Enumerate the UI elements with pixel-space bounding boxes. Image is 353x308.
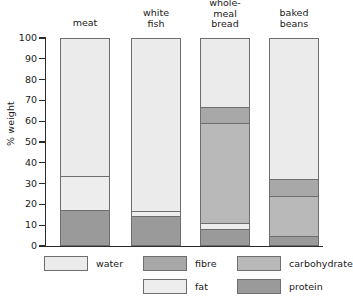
segment-divider: [61, 210, 109, 211]
legend-swatch-carbohydrate: [237, 256, 281, 271]
y-tick-label-20: 20: [11, 199, 37, 209]
chart-legend: waterfibrecarbohydratefatprotein: [39, 255, 324, 305]
legend-swatch-water: [44, 256, 88, 271]
bar-group-1: meat: [60, 0, 110, 260]
segment-divider: [201, 229, 249, 230]
y-tick-0: [39, 245, 45, 246]
legend-row-1: fatprotein: [39, 278, 324, 298]
segment-carbohydrate-3: [270, 196, 318, 236]
y-tick-30: [39, 183, 45, 184]
bar-label-0: meat: [60, 18, 110, 29]
legend-row-0: waterfibrecarbohydrate: [39, 255, 324, 275]
y-tick-40: [39, 162, 45, 163]
segment-divider: [270, 179, 318, 180]
y-tick-100: [39, 37, 45, 38]
legend-label-fibre: fibre: [195, 258, 217, 269]
y-tick-label-0: 0: [11, 241, 37, 251]
segment-protein-3: [270, 236, 318, 246]
legend-label-carbohydrate: carbohydrate: [289, 258, 353, 269]
y-tick-10: [39, 225, 45, 226]
segment-divider: [270, 196, 318, 197]
segment-divider: [132, 211, 180, 212]
y-tick-label-90: 90: [11, 54, 37, 64]
segment-divider: [132, 216, 180, 217]
segment-divider: [201, 223, 249, 224]
segment-protein-0: [61, 210, 109, 246]
segment-protein-2: [201, 229, 249, 246]
segment-water-1: [132, 39, 180, 211]
segment-divider: [270, 236, 318, 237]
segment-fat-0: [61, 176, 109, 209]
bar-1: [131, 38, 181, 246]
bar-2: [200, 38, 250, 246]
bar-group-4: baked beans: [269, 0, 319, 260]
legend-label-water: water: [96, 258, 123, 269]
segment-water-2: [201, 39, 249, 107]
segment-carbohydrate-2: [201, 123, 249, 222]
legend-swatch-fat: [143, 279, 187, 294]
legend-label-protein: protein: [289, 281, 323, 292]
y-tick-label-100: 100: [11, 33, 37, 43]
y-tick-60: [39, 121, 45, 122]
segment-water-3: [270, 39, 318, 179]
y-tick-20: [39, 204, 45, 205]
y-tick-label-30: 30: [11, 179, 37, 189]
y-tick-label-80: 80: [11, 75, 37, 85]
y-tick-80: [39, 79, 45, 80]
legend-swatch-protein: [237, 279, 281, 294]
bar-group-2: white fish: [131, 0, 181, 260]
segment-divider: [201, 107, 249, 108]
y-tick-90: [39, 58, 45, 59]
bar-label-2: whole- meal bread: [200, 0, 250, 30]
y-tick-label-50: 50: [11, 137, 37, 147]
bar-label-1: white fish: [131, 8, 181, 29]
y-tick-70: [39, 100, 45, 101]
segment-divider: [201, 123, 249, 124]
y-tick-label-10: 10: [11, 220, 37, 230]
y-tick-50: [39, 141, 45, 142]
bar-0: [60, 38, 110, 246]
y-tick-label-40: 40: [11, 158, 37, 168]
y-axis-line: [45, 37, 46, 247]
segment-divider: [61, 176, 109, 177]
y-tick-label-60: 60: [11, 116, 37, 126]
segment-fibre-3: [270, 179, 318, 196]
legend-label-fat: fat: [195, 281, 208, 292]
segment-fibre-2: [201, 107, 249, 124]
y-tick-label-70: 70: [11, 95, 37, 105]
bar-group-3: whole- meal bread: [200, 0, 250, 260]
legend-swatch-fibre: [143, 256, 187, 271]
segment-protein-1: [132, 216, 180, 246]
bar-3: [269, 38, 319, 246]
segment-water-0: [61, 39, 109, 176]
bar-label-3: baked beans: [269, 8, 319, 29]
